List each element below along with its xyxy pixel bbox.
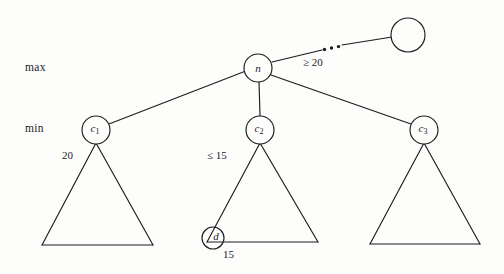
minimax-tree-figure: max min n c1 c2 c3 d ≥ 20 20 ≤ 15 15 — [0, 0, 504, 274]
subtree-triangle-c1 — [42, 143, 153, 245]
subtree-triangle-c3 — [370, 143, 480, 244]
edge-n-to-sibling-right — [342, 37, 392, 45]
edge-n-to-c3 — [271, 75, 411, 124]
node-label-n: n — [255, 63, 261, 74]
node-label-d: d — [213, 231, 219, 242]
node-sibling-circle[interactable] — [391, 18, 425, 52]
edge-n-to-c1 — [109, 72, 245, 125]
edge-label-sibling-bound: ≥ 20 — [303, 57, 323, 68]
node-label-c3: c3 — [418, 123, 427, 136]
ellipsis-dots-icon — [323, 45, 340, 51]
level-label-min: min — [25, 123, 44, 135]
edge-n-to-c2 — [259, 82, 260, 116]
tree-graphics — [0, 0, 504, 274]
node-label-c2: c2 — [254, 123, 263, 136]
node-label-c1: c1 — [90, 123, 99, 136]
level-label-max: max — [25, 62, 46, 74]
value-label-c1: 20 — [62, 150, 73, 161]
value-label-d: 15 — [223, 249, 234, 260]
bound-label-c2: ≤ 15 — [207, 150, 227, 161]
